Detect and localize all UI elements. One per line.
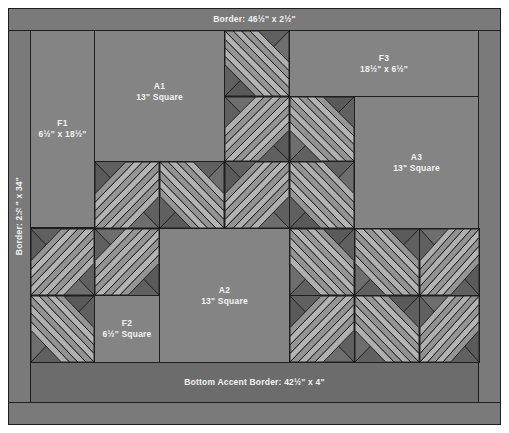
left-border-label: Border: 2½" x 34" <box>14 177 25 255</box>
pieced-block-b-r4c7 <box>419 228 480 296</box>
pieced-block-b-r3c4 <box>224 161 290 229</box>
a2-name: A2 <box>219 285 230 296</box>
pieced-block-b-r5c7 <box>419 295 480 363</box>
piece-f1: F1 6½" x 18½" <box>30 30 95 228</box>
pieced-block-b-r5c5 <box>289 295 355 363</box>
top-border: Border: 46½" x 2½" <box>8 8 501 31</box>
piece-f3: F3 18½" x 6½" <box>289 30 479 97</box>
f2-size: 6½" Square <box>102 329 151 340</box>
a1-size: 13" Square <box>136 92 183 103</box>
f3-size: 18½" x 6½" <box>360 64 408 75</box>
f3-name: F3 <box>379 53 389 64</box>
pieced-block-b-r4c2 <box>94 228 160 296</box>
f1-name: F1 <box>57 118 67 129</box>
pieced-block-b-r2c5 <box>289 96 355 162</box>
top-border-label: Border: 46½" x 2½" <box>213 14 296 25</box>
pieced-block-b-r1c4 <box>224 30 290 97</box>
piece-a2: A2 13" Square <box>159 228 290 363</box>
pieced-block-b-r3c2 <box>94 161 160 229</box>
bottom-border <box>8 402 501 425</box>
pieced-block-b-r3c3 <box>159 161 225 229</box>
a1-name: A1 <box>154 81 165 92</box>
piece-f2: F2 6½" Square <box>94 295 160 363</box>
piece-a1: A1 13" Square <box>94 30 225 162</box>
right-border <box>478 30 501 403</box>
bottom-accent-border: Bottom Accent Border: 42½" x 4" <box>30 362 479 403</box>
left-border: Border: 2½" x 34" <box>8 30 31 403</box>
pieced-block-b-r4c6 <box>354 228 420 296</box>
pieced-block-b-r4c1 <box>30 228 95 296</box>
pieced-block-b-r5c6 <box>354 295 420 363</box>
f2-name: F2 <box>122 318 132 329</box>
a3-name: A3 <box>411 152 422 163</box>
pieced-block-b-r2c4 <box>224 96 290 162</box>
f1-size: 6½" x 18½" <box>39 129 87 140</box>
a2-size: 13" Square <box>201 296 248 307</box>
bottom-accent-label: Bottom Accent Border: 42½" x 4" <box>184 377 325 388</box>
pieced-block-b-r3c5 <box>289 161 355 229</box>
a3-size: 13" Square <box>393 163 440 174</box>
pieced-block-b-r5c1 <box>30 295 95 363</box>
pieced-block-b-r4c5 <box>289 228 355 296</box>
piece-a3: A3 13" Square <box>354 96 479 229</box>
